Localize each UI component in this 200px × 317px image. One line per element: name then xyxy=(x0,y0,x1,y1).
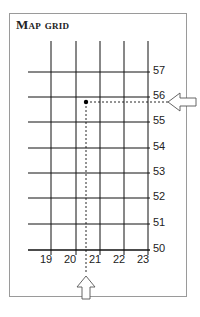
y-label: 57 xyxy=(153,64,165,76)
y-label: 56 xyxy=(153,89,165,101)
up-arrow-icon xyxy=(77,276,95,299)
left-arrow-icon xyxy=(168,93,196,111)
y-label: 53 xyxy=(153,165,165,177)
x-label: 22 xyxy=(113,253,125,265)
x-label: 20 xyxy=(64,253,76,265)
y-label: 51 xyxy=(153,216,165,228)
y-label: 55 xyxy=(153,114,165,126)
y-label: 52 xyxy=(153,190,165,202)
y-label: 54 xyxy=(153,140,165,152)
location-dot xyxy=(84,100,88,104)
x-label: 19 xyxy=(40,253,52,265)
x-label: 23 xyxy=(137,253,149,265)
map-grid: 57 56 55 54 53 52 51 50 19 20 21 22 23 xyxy=(0,0,200,317)
y-label: 50 xyxy=(153,242,165,254)
x-label: 21 xyxy=(89,253,101,265)
